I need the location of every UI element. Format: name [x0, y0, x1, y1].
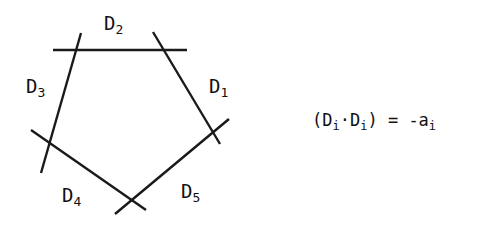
line-d4 [31, 130, 146, 210]
label-d1: D1 [209, 77, 228, 99]
label-d4: D4 [62, 186, 81, 208]
label-d2: D2 [104, 14, 123, 36]
self-intersection-formula: (Di·Di) = -ai [312, 110, 436, 133]
line-d5 [115, 119, 229, 214]
label-d3: D3 [26, 77, 45, 99]
label-d5: D5 [181, 182, 200, 204]
